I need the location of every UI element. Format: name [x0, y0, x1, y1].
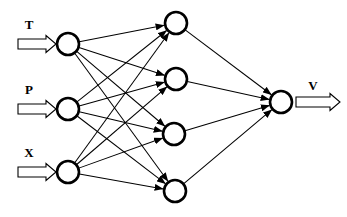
node-hidden-4 [164, 180, 186, 202]
label-input-t: T [25, 17, 34, 32]
edge-input-1-to-hidden-1 [79, 25, 164, 42]
label-input-x: X [24, 145, 34, 160]
edge-hidden-3-to-output-1 [185, 105, 269, 130]
edge-input-1-to-hidden-2 [79, 48, 165, 76]
node-hidden-1 [165, 12, 187, 34]
input-arrow-t [18, 36, 56, 53]
edge-input-2-to-hidden-2 [79, 82, 164, 106]
network-canvas: TPXV [0, 0, 347, 217]
edge-input-1-to-hidden-3 [77, 51, 165, 126]
edge-input-3-to-hidden-3 [79, 138, 163, 168]
edge-input-3-to-hidden-4 [79, 174, 163, 189]
edges-hidden-to-output [184, 30, 272, 184]
edge-hidden-1-to-output-1 [185, 30, 271, 95]
node-input-1 [57, 33, 79, 55]
input-arrow-x [18, 164, 56, 181]
network-nodes [57, 12, 292, 202]
node-input-3 [57, 161, 79, 183]
label-input-p: P [25, 82, 33, 97]
neural-network-diagram: TPXV [0, 0, 347, 217]
node-hidden-3 [163, 123, 185, 145]
node-hidden-2 [165, 68, 187, 90]
output-arrow-v [296, 94, 340, 111]
edges-input-to-hidden [75, 25, 169, 189]
edge-input-2-to-hidden-3 [79, 112, 162, 132]
edge-hidden-4-to-output-1 [184, 110, 272, 184]
node-output-1 [270, 91, 292, 113]
edge-input-2-to-hidden-1 [77, 30, 167, 101]
label-output-v: V [308, 78, 318, 93]
input-arrow-p [18, 101, 56, 118]
node-input-2 [57, 98, 79, 120]
